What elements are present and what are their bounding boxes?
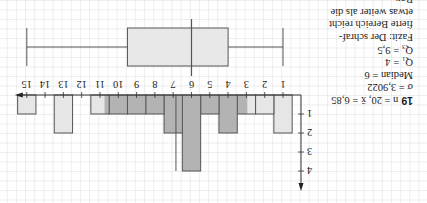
y-axis-arrow-icon <box>299 183 304 191</box>
x-tick-label: 5 <box>207 79 212 90</box>
y-tick-label: 1 <box>307 108 312 119</box>
y-tick-label: 3 <box>307 146 312 157</box>
notes-line-4: Q₃ = 9,5 <box>303 43 413 56</box>
y-tick-label: 2 <box>307 127 312 138</box>
y-tick-label: 4 <box>306 165 312 176</box>
x-tick-label: 12 <box>76 79 87 90</box>
boxplot <box>27 19 283 76</box>
bar-13 <box>54 95 72 133</box>
exercise-number: 19 <box>401 95 413 107</box>
x-tick-label: 2 <box>262 79 267 90</box>
x-tick-label: 9 <box>134 79 139 90</box>
notes-line-5: Fazit: Der schraf- <box>303 30 413 43</box>
x-tick-label: 7 <box>171 79 176 90</box>
x-tick-label: 14 <box>39 79 50 90</box>
x-tick-label: 3 <box>244 79 249 90</box>
x-tick-label: 6 <box>189 79 194 90</box>
x-tick-label: 8 <box>152 79 157 90</box>
notes-line-7: etwas weiter als die <box>303 5 413 18</box>
notes-line-3: Q₁ = 4 <box>303 56 413 69</box>
bar-1 <box>274 95 292 133</box>
x-tick-label: 15 <box>22 79 33 90</box>
notes-line-0: 19n = 20, x̄ = 6,85 <box>303 93 413 107</box>
x-tick-label: 4 <box>225 79 231 90</box>
notes-line-6: fierte Bereich reicht <box>303 18 413 31</box>
x-tick-label: 10 <box>113 79 124 90</box>
bar-7 <box>164 95 182 133</box>
figure: 1234567891011121314151234 19n = 20, x̄ =… <box>0 0 427 203</box>
exercise-notes: 19n = 20, x̄ = 6,85 σ = 3,9022 Median = … <box>303 0 413 107</box>
histogram-bars <box>18 95 292 171</box>
iqr-box <box>127 28 228 66</box>
x-tick-label: 1 <box>280 79 285 90</box>
bar-6 <box>182 95 200 171</box>
bar-4 <box>219 95 237 133</box>
notes-line-1: σ = 3,9022 <box>303 81 413 94</box>
x-tick-label: 11 <box>95 79 105 90</box>
notes-line-2: Median = 6 <box>303 68 413 81</box>
x-tick-label: 13 <box>58 79 69 90</box>
